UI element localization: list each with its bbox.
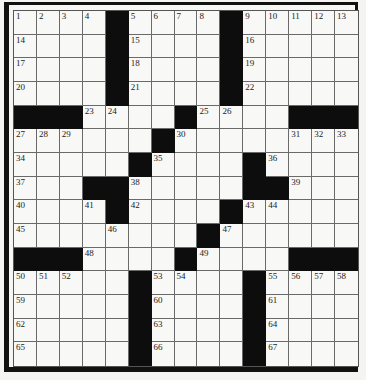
- grid-cell[interactable]: [83, 58, 106, 82]
- grid-cell[interactable]: [312, 177, 335, 201]
- grid-cell[interactable]: [312, 153, 335, 177]
- grid-cell[interactable]: [335, 177, 358, 201]
- grid-cell[interactable]: 47: [220, 224, 243, 248]
- grid-cell[interactable]: [220, 248, 243, 272]
- grid-cell[interactable]: [60, 342, 83, 366]
- grid-cell[interactable]: [60, 224, 83, 248]
- grid-cell[interactable]: [106, 248, 129, 272]
- grid-cell[interactable]: [152, 106, 175, 130]
- grid-cell[interactable]: [220, 342, 243, 366]
- grid-cell[interactable]: [106, 319, 129, 343]
- grid-cell[interactable]: [175, 295, 198, 319]
- grid-cell[interactable]: 66: [152, 342, 175, 366]
- grid-cell[interactable]: [175, 82, 198, 106]
- grid-cell[interactable]: 50: [14, 271, 37, 295]
- grid-cell[interactable]: [243, 106, 266, 130]
- grid-cell[interactable]: [175, 342, 198, 366]
- grid-cell[interactable]: 49: [197, 248, 220, 272]
- grid-cell[interactable]: [83, 129, 106, 153]
- grid-cell[interactable]: 2: [37, 11, 60, 35]
- grid-cell[interactable]: [312, 342, 335, 366]
- grid-cell[interactable]: [175, 177, 198, 201]
- grid-cell[interactable]: 51: [37, 271, 60, 295]
- grid-cell[interactable]: 3: [60, 11, 83, 35]
- grid-cell[interactable]: 7: [175, 11, 198, 35]
- grid-cell[interactable]: [60, 200, 83, 224]
- grid-cell[interactable]: [312, 200, 335, 224]
- grid-cell[interactable]: [289, 153, 312, 177]
- grid-cell[interactable]: [83, 82, 106, 106]
- grid-cell[interactable]: 11: [289, 11, 312, 35]
- grid-cell[interactable]: 27: [14, 129, 37, 153]
- grid-cell[interactable]: [335, 58, 358, 82]
- grid-cell[interactable]: [83, 319, 106, 343]
- grid-cell[interactable]: 37: [14, 177, 37, 201]
- grid-cell[interactable]: [106, 129, 129, 153]
- grid-cell[interactable]: [60, 319, 83, 343]
- grid-cell[interactable]: [289, 319, 312, 343]
- grid-cell[interactable]: [60, 35, 83, 59]
- grid-cell[interactable]: 13: [335, 11, 358, 35]
- grid-cell[interactable]: 43: [243, 200, 266, 224]
- grid-cell[interactable]: [289, 58, 312, 82]
- grid-cell[interactable]: [243, 129, 266, 153]
- grid-cell[interactable]: [220, 295, 243, 319]
- grid-cell[interactable]: [197, 177, 220, 201]
- grid-cell[interactable]: 31: [289, 129, 312, 153]
- grid-cell[interactable]: [37, 58, 60, 82]
- grid-cell[interactable]: 19: [243, 58, 266, 82]
- grid-cell[interactable]: [175, 35, 198, 59]
- grid-cell[interactable]: [197, 295, 220, 319]
- grid-cell[interactable]: 39: [289, 177, 312, 201]
- grid-cell[interactable]: [37, 153, 60, 177]
- grid-cell[interactable]: 48: [83, 248, 106, 272]
- grid-cell[interactable]: [60, 58, 83, 82]
- grid-cell[interactable]: [152, 224, 175, 248]
- grid-cell[interactable]: [106, 295, 129, 319]
- grid-cell[interactable]: 16: [243, 35, 266, 59]
- grid-cell[interactable]: [129, 106, 152, 130]
- grid-cell[interactable]: [37, 319, 60, 343]
- grid-cell[interactable]: [266, 106, 289, 130]
- grid-cell[interactable]: [60, 177, 83, 201]
- grid-cell[interactable]: [129, 224, 152, 248]
- grid-cell[interactable]: 52: [60, 271, 83, 295]
- grid-cell[interactable]: [37, 295, 60, 319]
- grid-cell[interactable]: 1: [14, 11, 37, 35]
- grid-cell[interactable]: 6: [152, 11, 175, 35]
- grid-cell[interactable]: 44: [266, 200, 289, 224]
- grid-cell[interactable]: 54: [175, 271, 198, 295]
- grid-cell[interactable]: 63: [152, 319, 175, 343]
- grid-cell[interactable]: [106, 153, 129, 177]
- grid-cell[interactable]: [60, 82, 83, 106]
- grid-cell[interactable]: 53: [152, 271, 175, 295]
- grid-cell[interactable]: 41: [83, 200, 106, 224]
- grid-cell[interactable]: [129, 129, 152, 153]
- grid-cell[interactable]: [335, 319, 358, 343]
- grid-cell[interactable]: 42: [129, 200, 152, 224]
- grid-cell[interactable]: [83, 295, 106, 319]
- grid-cell[interactable]: [60, 153, 83, 177]
- grid-cell[interactable]: [289, 295, 312, 319]
- grid-cell[interactable]: [152, 200, 175, 224]
- grid-cell[interactable]: [175, 319, 198, 343]
- grid-cell[interactable]: 29: [60, 129, 83, 153]
- grid-cell[interactable]: 10: [266, 11, 289, 35]
- grid-cell[interactable]: [37, 342, 60, 366]
- grid-cell[interactable]: [266, 129, 289, 153]
- grid-cell[interactable]: [197, 271, 220, 295]
- grid-cell[interactable]: [220, 153, 243, 177]
- grid-cell[interactable]: 5: [129, 11, 152, 35]
- grid-cell[interactable]: 36: [266, 153, 289, 177]
- grid-cell[interactable]: 67: [266, 342, 289, 366]
- grid-cell[interactable]: 38: [129, 177, 152, 201]
- grid-cell[interactable]: 21: [129, 82, 152, 106]
- grid-cell[interactable]: [37, 200, 60, 224]
- grid-cell[interactable]: 57: [312, 271, 335, 295]
- grid-cell[interactable]: 23: [83, 106, 106, 130]
- grid-cell[interactable]: 14: [14, 35, 37, 59]
- grid-cell[interactable]: [37, 35, 60, 59]
- grid-cell[interactable]: [266, 82, 289, 106]
- grid-cell[interactable]: 61: [266, 295, 289, 319]
- grid-cell[interactable]: 22: [243, 82, 266, 106]
